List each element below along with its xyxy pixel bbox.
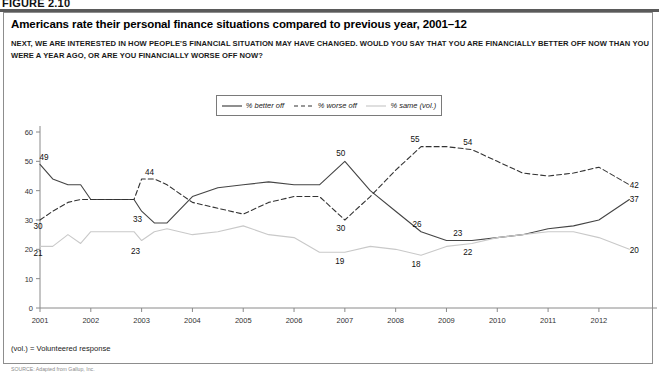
chart-footnote: (vol.) = Volunteered response: [11, 344, 110, 353]
svg-text:50: 50: [25, 157, 33, 166]
svg-text:30: 30: [25, 216, 33, 225]
svg-text:37: 37: [630, 195, 640, 204]
legend-label-better-off: % better off: [246, 101, 284, 110]
line-chart-svg: 0102030405060200120022003200420052006200…: [0, 118, 659, 338]
svg-text:2010: 2010: [489, 316, 506, 325]
svg-text:2006: 2006: [286, 316, 303, 325]
survey-question-text: NEXT, WE ARE INTERESTED IN HOW PEOPLE'S …: [11, 38, 649, 61]
chart-series-group: [40, 147, 629, 256]
legend-swatch-solid-dark: [222, 102, 242, 110]
legend-item-same[interactable]: % same (vol.): [366, 101, 436, 110]
svg-text:2002: 2002: [82, 316, 99, 325]
svg-text:2011: 2011: [540, 316, 556, 325]
chart-source-line: SOURCE: Adapted from Gallup, Inc.: [11, 366, 651, 372]
svg-text:20: 20: [25, 245, 33, 254]
figure-number: FIGURE 2.10: [2, 0, 70, 9]
svg-text:42: 42: [630, 181, 640, 190]
svg-text:23: 23: [131, 247, 141, 256]
svg-text:50: 50: [336, 149, 346, 158]
svg-text:40: 40: [25, 187, 33, 196]
chart-title: Americans rate their personal finance si…: [11, 18, 641, 30]
svg-text:23: 23: [453, 229, 463, 238]
svg-text:2004: 2004: [184, 316, 201, 325]
svg-text:33: 33: [133, 215, 143, 224]
svg-text:55: 55: [411, 135, 421, 144]
svg-text:19: 19: [335, 257, 345, 266]
svg-text:49: 49: [39, 153, 49, 162]
legend-label-worse-off: % worse off: [318, 101, 357, 110]
svg-text:30: 30: [336, 224, 346, 233]
svg-text:10: 10: [25, 275, 33, 284]
chart-plot-area: 0102030405060200120022003200420052006200…: [0, 118, 659, 338]
svg-text:26: 26: [413, 220, 423, 229]
svg-text:0: 0: [29, 304, 33, 313]
svg-text:2008: 2008: [387, 316, 404, 325]
svg-text:60: 60: [25, 128, 33, 137]
svg-text:18: 18: [412, 260, 422, 269]
svg-text:21: 21: [33, 249, 43, 258]
legend-item-better-off[interactable]: % better off: [222, 101, 284, 110]
svg-text:2005: 2005: [235, 316, 252, 325]
svg-text:30: 30: [33, 222, 43, 231]
svg-text:54: 54: [463, 138, 473, 147]
svg-text:20: 20: [630, 246, 640, 255]
legend-label-same: % same (vol.): [390, 101, 436, 110]
legend-swatch-dashed: [294, 102, 314, 110]
svg-text:22: 22: [463, 248, 473, 257]
legend-swatch-solid-light: [366, 102, 386, 110]
svg-text:2003: 2003: [133, 316, 150, 325]
chart-legend: % better off % worse off % same (vol.): [216, 95, 442, 116]
svg-text:2012: 2012: [591, 316, 608, 325]
svg-text:2009: 2009: [438, 316, 455, 325]
svg-text:2001: 2001: [32, 316, 49, 325]
legend-item-worse-off[interactable]: % worse off: [294, 101, 357, 110]
svg-text:44: 44: [145, 168, 155, 177]
chart-point-labels: 493021443323503019552618542322423720: [33, 135, 639, 270]
svg-text:2007: 2007: [337, 316, 354, 325]
